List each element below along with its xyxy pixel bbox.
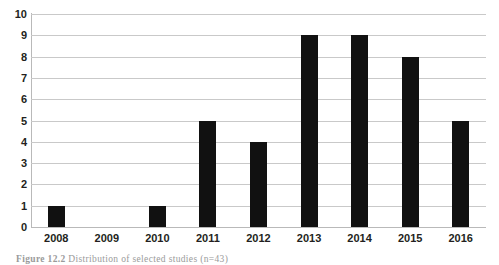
- y-tick-label-6: 6: [1, 94, 27, 105]
- y-tick-label-8: 8: [1, 52, 27, 63]
- bar-2015: [402, 57, 419, 227]
- figure-container: 109876543210 200820092010201120122013201…: [0, 0, 499, 265]
- x-tick-label-2008: 2008: [31, 232, 81, 245]
- bar-2016: [452, 121, 469, 228]
- y-tick-label-1: 1: [1, 201, 27, 212]
- y-tick-label-0: 0: [1, 222, 27, 233]
- bar-2008: [48, 206, 65, 227]
- x-tick-label-2015: 2015: [385, 232, 435, 245]
- bar-2010: [149, 206, 166, 227]
- bar-2014: [351, 35, 368, 227]
- x-tick-label-2016: 2016: [436, 232, 486, 245]
- y-tick-label-4: 4: [1, 137, 27, 148]
- y-tick-label-2: 2: [1, 179, 27, 190]
- bar-2011: [199, 121, 216, 228]
- bar-series: [31, 14, 486, 227]
- x-tick-label-2010: 2010: [132, 232, 182, 245]
- y-axis-tick-labels: 109876543210: [0, 0, 27, 265]
- figure-caption: Figure 12.2 Distribution of selected stu…: [16, 253, 486, 265]
- x-tick-label-2014: 2014: [335, 232, 385, 245]
- x-tick-label-2012: 2012: [234, 232, 284, 245]
- bar-2013: [301, 35, 318, 227]
- plot-area: [31, 14, 486, 227]
- x-tick-label-2009: 2009: [82, 232, 132, 245]
- y-tick-label-9: 9: [1, 30, 27, 41]
- gridline-0: [31, 227, 486, 228]
- x-tick-label-2013: 2013: [284, 232, 334, 245]
- bar-2012: [250, 142, 267, 227]
- x-axis-tick-labels: 200820092010201120122013201420152016: [31, 232, 486, 246]
- y-tick-label-7: 7: [1, 73, 27, 84]
- figure-caption-text: Distribution of selected studies (n=43): [68, 254, 228, 264]
- figure-caption-label: Figure 12.2: [16, 254, 66, 264]
- y-tick-label-5: 5: [1, 116, 27, 127]
- x-tick-label-2011: 2011: [183, 232, 233, 245]
- y-tick-label-10: 10: [1, 9, 27, 20]
- y-tick-label-3: 3: [1, 158, 27, 169]
